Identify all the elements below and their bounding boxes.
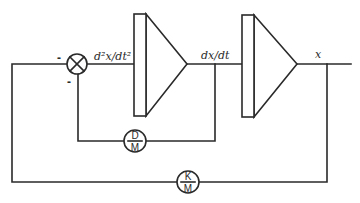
integrator-1-triangle xyxy=(146,14,187,116)
sign-bottom: - xyxy=(67,75,71,89)
wire-damping-to-sum xyxy=(78,74,124,141)
sign-left: - xyxy=(57,51,61,65)
damping-gain-denominator: M xyxy=(131,142,139,153)
damping-gain-numerator: D xyxy=(131,130,138,141)
integrator-2-triangle xyxy=(254,15,297,117)
summing-junction: - - xyxy=(57,51,87,89)
integrator-1 xyxy=(134,14,187,116)
spring-gain-denominator: M xyxy=(184,183,192,194)
label-velocity: dx/dt xyxy=(201,49,230,62)
spring-gain-numerator: K xyxy=(185,171,192,182)
damping-gain: D M xyxy=(124,130,146,153)
integrator-2 xyxy=(242,15,297,117)
label-acceleration: d²x/dt² xyxy=(94,50,131,63)
label-position: x xyxy=(315,48,322,61)
integrator-2-bar xyxy=(242,15,254,117)
block-diagram: - - D M K M d²x/dt² dx/dt x xyxy=(0,0,360,203)
integrator-1-bar xyxy=(134,14,146,116)
spring-gain: K M xyxy=(177,171,199,194)
